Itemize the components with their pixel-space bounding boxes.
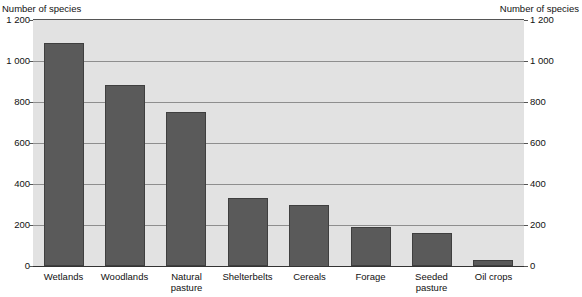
category-label: Oil crops: [463, 271, 524, 282]
bar: [228, 198, 268, 266]
right-tick-mark-1000: [524, 61, 528, 62]
category-label-line2: pasture: [401, 282, 462, 293]
right-tick-label-800: 800: [530, 97, 570, 107]
bar: [289, 205, 329, 267]
right-tick-label-0: 0: [530, 261, 570, 271]
gridline-1000: [33, 61, 524, 62]
right-tick-label-400: 400: [530, 179, 570, 189]
right-tick-label-1200: 1 200: [530, 15, 570, 25]
category-label: Wetlands: [33, 271, 94, 282]
category-label: Forage: [340, 271, 401, 282]
bar: [412, 233, 452, 266]
category-label: Shelterbelts: [217, 271, 278, 282]
category-label-line1: Woodlands: [94, 271, 155, 282]
right-tick-mark-800: [524, 102, 528, 103]
right-tick-mark-200: [524, 225, 528, 226]
left-tick-label-200: 200: [0, 220, 30, 230]
category-label: Cereals: [279, 271, 340, 282]
category-label-line2: pasture: [156, 282, 217, 293]
left-tick-label-1200: 1 200: [0, 15, 30, 25]
left-tick-label-1000: 1 000: [0, 56, 30, 66]
left-tick-mark-200: [29, 225, 33, 226]
right-tick-label-1000: 1 000: [530, 56, 570, 66]
bar-chart: Number of species Number of species 0200…: [0, 0, 582, 297]
plot-area: [33, 20, 524, 266]
bar: [105, 85, 145, 266]
left-tick-label-400: 400: [0, 179, 30, 189]
right-axis-title: Number of species: [500, 3, 579, 14]
right-tick-mark-0: [524, 266, 528, 267]
bar: [166, 112, 206, 266]
right-tick-mark-600: [524, 143, 528, 144]
bar: [351, 227, 391, 266]
category-label: Woodlands: [94, 271, 155, 282]
left-tick-label-800: 800: [0, 97, 30, 107]
category-label-line1: Oil crops: [463, 271, 524, 282]
right-tick-mark-400: [524, 184, 528, 185]
left-axis-title: Number of species: [2, 3, 81, 14]
bar: [44, 43, 84, 266]
left-tick-mark-400: [29, 184, 33, 185]
right-tick-label-600: 600: [530, 138, 570, 148]
category-label-line1: Shelterbelts: [217, 271, 278, 282]
left-tick-mark-800: [29, 102, 33, 103]
left-tick-label-600: 600: [0, 138, 30, 148]
left-tick-label-0: 0: [0, 261, 30, 271]
category-label-line1: Seeded: [401, 271, 462, 282]
left-tick-mark-1200: [29, 20, 33, 21]
left-tick-mark-0: [29, 266, 33, 267]
right-tick-label-200: 200: [530, 220, 570, 230]
right-tick-mark-1200: [524, 20, 528, 21]
left-tick-mark-600: [29, 143, 33, 144]
category-label-line1: Forage: [340, 271, 401, 282]
category-label-line1: Wetlands: [33, 271, 94, 282]
category-label-line1: Natural: [156, 271, 217, 282]
left-tick-mark-1000: [29, 61, 33, 62]
category-label: Seededpasture: [401, 271, 462, 293]
x-axis-line: [33, 266, 524, 267]
category-label-line1: Cereals: [279, 271, 340, 282]
category-label: Naturalpasture: [156, 271, 217, 293]
